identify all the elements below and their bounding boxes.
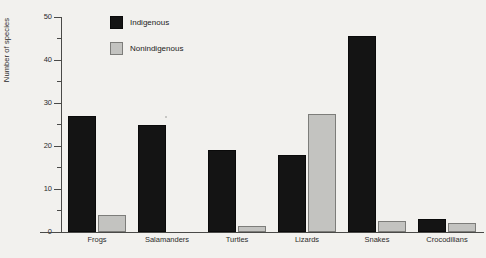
bar-turtles-indigenous bbox=[208, 150, 236, 232]
bar-lizards-nonindigenous bbox=[308, 114, 336, 232]
bar-turtles-nonindigenous bbox=[238, 226, 266, 232]
y-tick-0 bbox=[54, 232, 62, 233]
bar-snakes-nonindigenous bbox=[378, 221, 406, 232]
bar-lizards-indigenous bbox=[278, 155, 306, 232]
bar-chart: Number of species 50 40 30 20 10 0 Indig… bbox=[0, 0, 486, 258]
bar-crocodilians-nonindigenous bbox=[448, 223, 476, 232]
x-axis-line bbox=[40, 232, 484, 233]
bar-salamanders-indigenous bbox=[138, 125, 166, 233]
bar-frogs-indigenous bbox=[68, 116, 96, 232]
bar-crocodilians-indigenous bbox=[418, 219, 446, 232]
bar-frogs-nonindigenous bbox=[98, 215, 126, 232]
x-label-crocodilians: Crocodilians bbox=[397, 236, 486, 244]
scan-speck bbox=[165, 116, 167, 118]
bar-snakes-indigenous bbox=[348, 36, 376, 232]
bars-layer bbox=[0, 0, 486, 232]
